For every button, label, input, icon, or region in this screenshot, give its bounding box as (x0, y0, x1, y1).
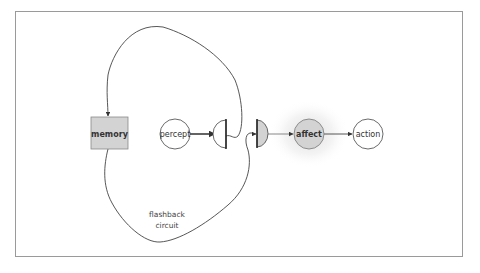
loop-caption-line2: circuit (155, 221, 178, 230)
gate-2-half-disc (257, 119, 268, 148)
affect-label: affect (296, 130, 322, 139)
memory-label: memory (91, 130, 129, 139)
node-memory: memory (91, 117, 129, 149)
percept-label: percept (160, 130, 191, 139)
gate-1-half-disc (213, 119, 226, 149)
action-label: action (356, 130, 381, 139)
flashback-circuit-diagram: memory percept affect action flashback c… (0, 0, 480, 273)
node-action: action (353, 119, 383, 149)
loop-caption-line1: flashback (149, 210, 185, 219)
node-percept: percept (160, 119, 191, 149)
node-affect: affect (294, 119, 324, 149)
